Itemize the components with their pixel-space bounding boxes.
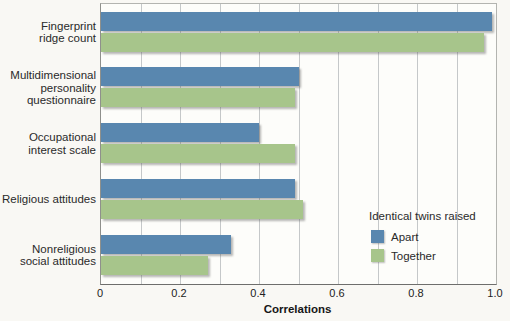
legend-swatch-apart bbox=[371, 230, 384, 243]
x-tick-label: 0.4 bbox=[250, 287, 265, 299]
bar-apart bbox=[101, 179, 295, 198]
category-labels: Fingerprint ridge countMultidimensional … bbox=[0, 0, 96, 283]
legend-title: Identical twins raised bbox=[369, 210, 476, 222]
bar-apart bbox=[101, 67, 299, 86]
category-label: Fingerprint ridge count bbox=[0, 20, 96, 45]
legend-label-apart: Apart bbox=[391, 231, 419, 243]
legend-label-together: Together bbox=[391, 250, 436, 262]
bar-together bbox=[101, 144, 295, 163]
bar-together bbox=[101, 33, 484, 52]
plot-area: Identical twins raised Apart Together bbox=[100, 3, 497, 285]
x-tick-label: 0.8 bbox=[408, 287, 423, 299]
bar-apart bbox=[101, 12, 492, 31]
bar-apart bbox=[101, 235, 231, 254]
x-tick-label: 0 bbox=[97, 287, 103, 299]
x-tick-label: 1.0 bbox=[487, 287, 502, 299]
category-label: Multidimensional personality questionnai… bbox=[0, 69, 96, 107]
bar-together bbox=[101, 88, 295, 107]
legend: Identical twins raised Apart Together bbox=[369, 210, 476, 265]
x-axis-label: Correlations bbox=[100, 303, 495, 315]
twin-correlations-figure: Fingerprint ridge countMultidimensional … bbox=[0, 0, 510, 321]
x-tick-label: 0.6 bbox=[329, 287, 344, 299]
category-label: Nonreligious social attitudes bbox=[0, 243, 96, 268]
bar-together bbox=[101, 200, 303, 219]
bar-apart bbox=[101, 123, 259, 142]
bar-together bbox=[101, 256, 208, 275]
legend-swatch-together bbox=[371, 249, 384, 262]
x-tick-label: 0.2 bbox=[171, 287, 186, 299]
legend-item-apart: Apart bbox=[371, 227, 476, 246]
category-label: Religious attitudes bbox=[0, 193, 96, 206]
legend-item-together: Together bbox=[371, 246, 476, 265]
category-label: Occupational interest scale bbox=[0, 131, 96, 156]
x-axis-ticks: 00.20.40.60.81.0 bbox=[100, 287, 495, 301]
